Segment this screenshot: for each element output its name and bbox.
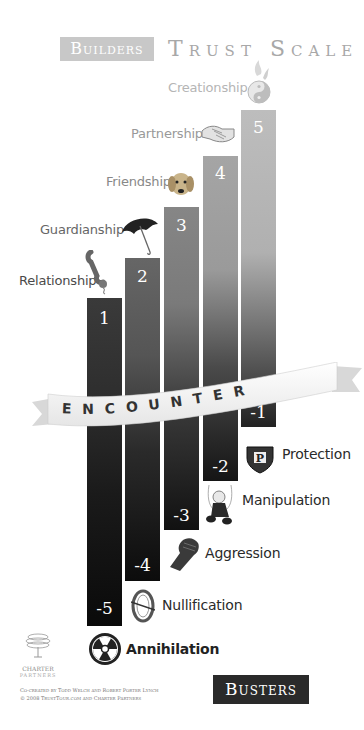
value-minus-5: -5: [87, 598, 122, 618]
builders-heading: Builders: [60, 37, 154, 61]
puppet-icon: [203, 483, 237, 525]
fist-icon: [166, 537, 202, 575]
svg-text:P: P: [256, 452, 264, 465]
value-4: 4: [203, 163, 238, 183]
value-minus-4: -4: [125, 555, 160, 575]
label-guardianship: Guardianship: [40, 222, 124, 237]
credit-line-2: © 2008 TrustTour.com and Charter Partner…: [20, 694, 158, 702]
value-minus-3: -3: [164, 505, 199, 525]
credits: Co-created by Todd Welch and Robert Port…: [20, 686, 158, 702]
value-minus-2: -2: [203, 456, 238, 476]
radiation-icon: [88, 632, 122, 666]
label-protection: Protection: [282, 446, 351, 462]
value-3: 3: [164, 215, 199, 235]
yin-yang-icon: [245, 60, 275, 106]
value-2: 2: [125, 266, 160, 286]
busters-heading: Busters: [213, 675, 309, 704]
dog-icon: [167, 171, 195, 199]
label-creationship: Creationship: [168, 80, 247, 95]
label-friendship: Friendship: [106, 174, 171, 189]
logo-line-2: PARTNERS: [18, 672, 58, 678]
shield-icon: P: [245, 444, 275, 474]
label-nullification: Nullification: [162, 597, 242, 613]
label-partnership: Partnership: [131, 126, 203, 141]
umbrella-icon: [120, 214, 160, 256]
credit-line-1: Co-created by Todd Welch and Robert Port…: [20, 686, 158, 694]
handshake-icon: [200, 121, 236, 145]
charter-partners-logo: CHARTER PARTNERS: [18, 631, 58, 681]
label-manipulation: Manipulation: [242, 492, 330, 508]
encounter-banner: ENCOUNTER: [32, 362, 362, 432]
label-aggression: Aggression: [205, 545, 280, 561]
value-1: 1: [87, 308, 122, 328]
label-annihilation: Annihilation: [126, 641, 219, 657]
value-5: 5: [241, 117, 276, 137]
page-title: Trust Scale: [168, 36, 358, 61]
logo-line-1: CHARTER: [18, 665, 58, 672]
telephone-icon: [85, 250, 111, 296]
tree-icon: [18, 631, 58, 661]
bar-4-to-minus-2: 4 -2: [203, 156, 238, 481]
null-ring-icon: [131, 588, 155, 624]
bar-1-to-minus-5: 1 -5: [87, 298, 122, 626]
